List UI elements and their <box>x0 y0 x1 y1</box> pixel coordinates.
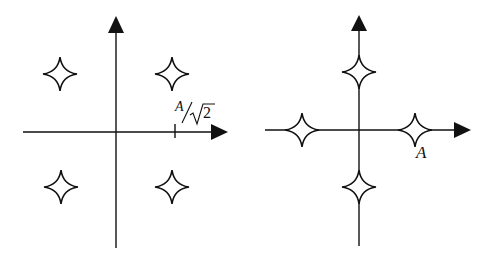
right-y-arrow-icon <box>351 15 367 31</box>
star-point-icon <box>155 57 189 91</box>
left-label-numerator: A <box>175 99 184 115</box>
star-point-icon <box>44 170 78 204</box>
star-point-icon <box>285 113 319 147</box>
star-point-icon <box>155 170 189 204</box>
star-point-icon <box>342 170 376 204</box>
constellation-diagrams <box>0 0 495 260</box>
star-point-icon <box>43 57 77 91</box>
left-y-arrow-icon <box>108 16 124 33</box>
star-point-icon <box>342 55 376 89</box>
right-label: A <box>416 143 426 163</box>
right-x-arrow-icon <box>454 122 471 138</box>
left-label-radicand: 2 <box>203 104 211 122</box>
star-point-icon <box>398 113 432 147</box>
left-diagram <box>23 16 228 248</box>
left-x-arrow-icon <box>211 124 228 140</box>
right-diagram <box>265 15 471 246</box>
